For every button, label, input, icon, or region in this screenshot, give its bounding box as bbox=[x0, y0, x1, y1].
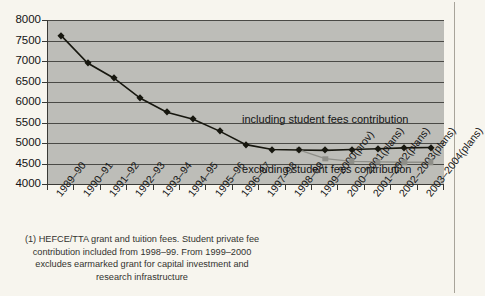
footnote-line-4: research infrastructure bbox=[24, 271, 260, 284]
x-tick-mark bbox=[153, 184, 154, 190]
footnote-line-2: contribution included from 1998–99. From… bbox=[24, 246, 260, 259]
y-tick-label: 7500 bbox=[0, 35, 41, 46]
y-tick-label: 4500 bbox=[0, 158, 41, 169]
y-tick-label: 6000 bbox=[0, 96, 41, 107]
y-tick-label: 4000 bbox=[0, 178, 41, 189]
data-point bbox=[428, 160, 433, 165]
x-tick-mark bbox=[47, 184, 48, 190]
footnote-line-3: excludes earmarked grant for capital inv… bbox=[24, 258, 260, 271]
y-tick-label: 6500 bbox=[0, 76, 41, 87]
series-lines bbox=[48, 20, 444, 184]
x-tick-mark bbox=[337, 184, 338, 190]
series-line bbox=[61, 36, 431, 151]
x-tick-mark bbox=[285, 184, 286, 190]
footnote-line-1: (1) HEFCE/TTA grant and tuition fees. St… bbox=[24, 233, 260, 246]
series-label: excluding student fees contribution bbox=[242, 163, 411, 175]
chart-footnote: (1) HEFCE/TTA grant and tuition fees. St… bbox=[24, 233, 260, 283]
x-tick-mark bbox=[417, 184, 418, 190]
y-tick-label: 8000 bbox=[0, 14, 41, 25]
x-tick-mark bbox=[205, 184, 206, 190]
y-tick-label: 5500 bbox=[0, 117, 41, 128]
x-tick-mark bbox=[73, 184, 74, 190]
y-tick-label: 7000 bbox=[0, 55, 41, 66]
data-point bbox=[322, 156, 327, 161]
series-label: including student fees contribution bbox=[242, 113, 408, 125]
y-tick-label: 5000 bbox=[0, 137, 41, 148]
